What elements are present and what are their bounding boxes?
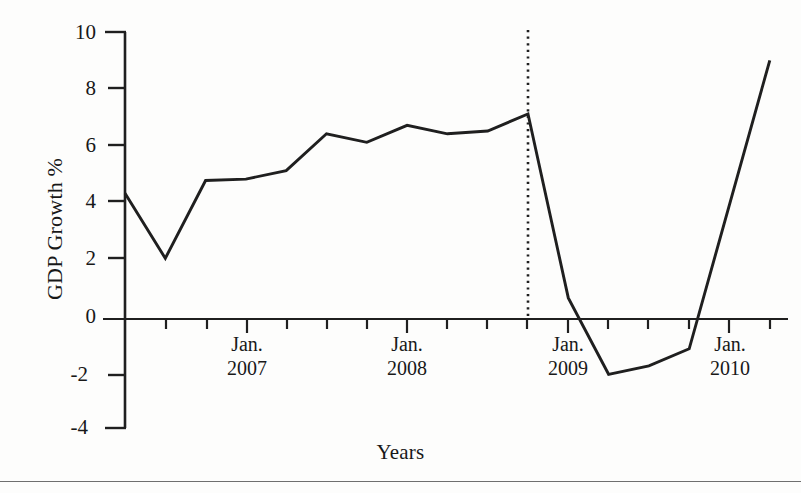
y-tick-label-minus-4: -4: [40, 415, 88, 440]
chart-figure: GDP Growth % Years 10 8 6 4 2 0 -2 -4 Ja…: [0, 0, 801, 493]
y-tick-marks: [105, 32, 126, 428]
x-tick-year-2007: 2007: [192, 357, 302, 381]
x-tick-label-jan-2009: Jan. 2009: [513, 333, 623, 380]
y-axis-title: GDP Growth %: [42, 158, 68, 300]
x-tick-year-2010: 2010: [675, 357, 785, 381]
x-tick-label-jan-2008: Jan. 2008: [352, 333, 462, 380]
y-tick-label-4: 4: [48, 189, 96, 214]
x-tick-label-jan-2010: Jan. 2010: [675, 333, 785, 380]
x-tick-marks: [166, 319, 770, 333]
x-tick-label-jan-2007: Jan. 2007: [192, 333, 302, 380]
y-tick-label-2: 2: [48, 246, 96, 271]
x-tick-month-2007: Jan.: [192, 333, 302, 357]
x-tick-year-2009: 2009: [513, 357, 623, 381]
chart-plot-area: [0, 0, 801, 493]
x-tick-month-2009: Jan.: [513, 333, 623, 357]
y-tick-label-8: 8: [48, 76, 96, 101]
figure-bottom-rule: [0, 481, 801, 482]
y-tick-label-0: 0: [48, 304, 96, 329]
x-axis-title: Years: [0, 440, 801, 465]
y-tick-label-minus-2: -2: [40, 362, 88, 387]
y-tick-label-6: 6: [48, 133, 96, 158]
y-tick-label-10: 10: [48, 20, 96, 45]
x-tick-month-2008: Jan.: [352, 333, 462, 357]
x-tick-year-2008: 2008: [352, 357, 462, 381]
x-tick-month-2010: Jan.: [675, 333, 785, 357]
